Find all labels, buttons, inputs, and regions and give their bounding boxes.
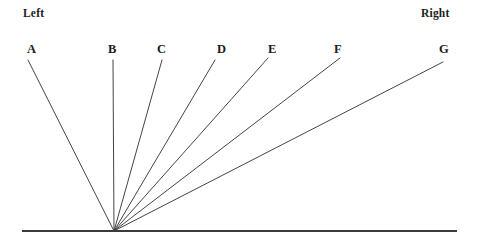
ray-a	[28, 60, 114, 231]
ray-e	[114, 58, 268, 231]
rays-group	[28, 58, 443, 231]
ray-label-b: B	[108, 43, 116, 56]
ray-f	[114, 58, 340, 231]
ray-b	[113, 60, 114, 231]
ray-g	[114, 62, 443, 231]
ray-label-a: A	[27, 43, 36, 56]
orientation-label-right: Right	[421, 8, 449, 20]
ray-label-e: E	[268, 43, 276, 56]
orientation-label-left: Left	[23, 8, 44, 20]
ray-label-g: G	[439, 43, 449, 56]
ray-label-d: D	[217, 43, 226, 56]
diagram-canvas	[0, 0, 477, 247]
ray-angle-diagram: Left Right ABCDEFG	[0, 0, 477, 247]
ray-label-f: F	[334, 43, 342, 56]
ray-label-c: C	[157, 43, 166, 56]
ray-c	[114, 60, 162, 231]
